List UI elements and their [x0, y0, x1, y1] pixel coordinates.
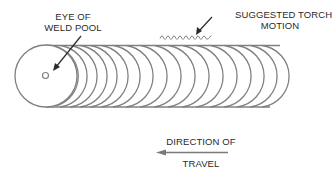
torch-pointer-arrow-icon	[196, 17, 212, 35]
torch-motion-squiggle	[160, 36, 211, 40]
eye-of-weld-pool-label: EYE OF WELD POOL	[38, 11, 108, 33]
bead-ripples	[60, 46, 289, 108]
torch-label-line2: MOTION	[235, 20, 325, 31]
direction-of-travel-label-line2: TRAVEL	[161, 158, 241, 169]
direction-arrow-left-icon	[156, 150, 228, 156]
torch-label-line1: SUGGESTED TORCH	[235, 9, 325, 20]
suggested-torch-motion-label: SUGGESTED TORCH MOTION	[235, 9, 325, 31]
direction-of-travel-label-line1: DIRECTION OF	[161, 136, 241, 147]
eye-label-line2: WELD POOL	[38, 22, 108, 33]
weld-pool-circle	[15, 45, 77, 107]
eye-label-line1: EYE OF	[38, 11, 108, 22]
